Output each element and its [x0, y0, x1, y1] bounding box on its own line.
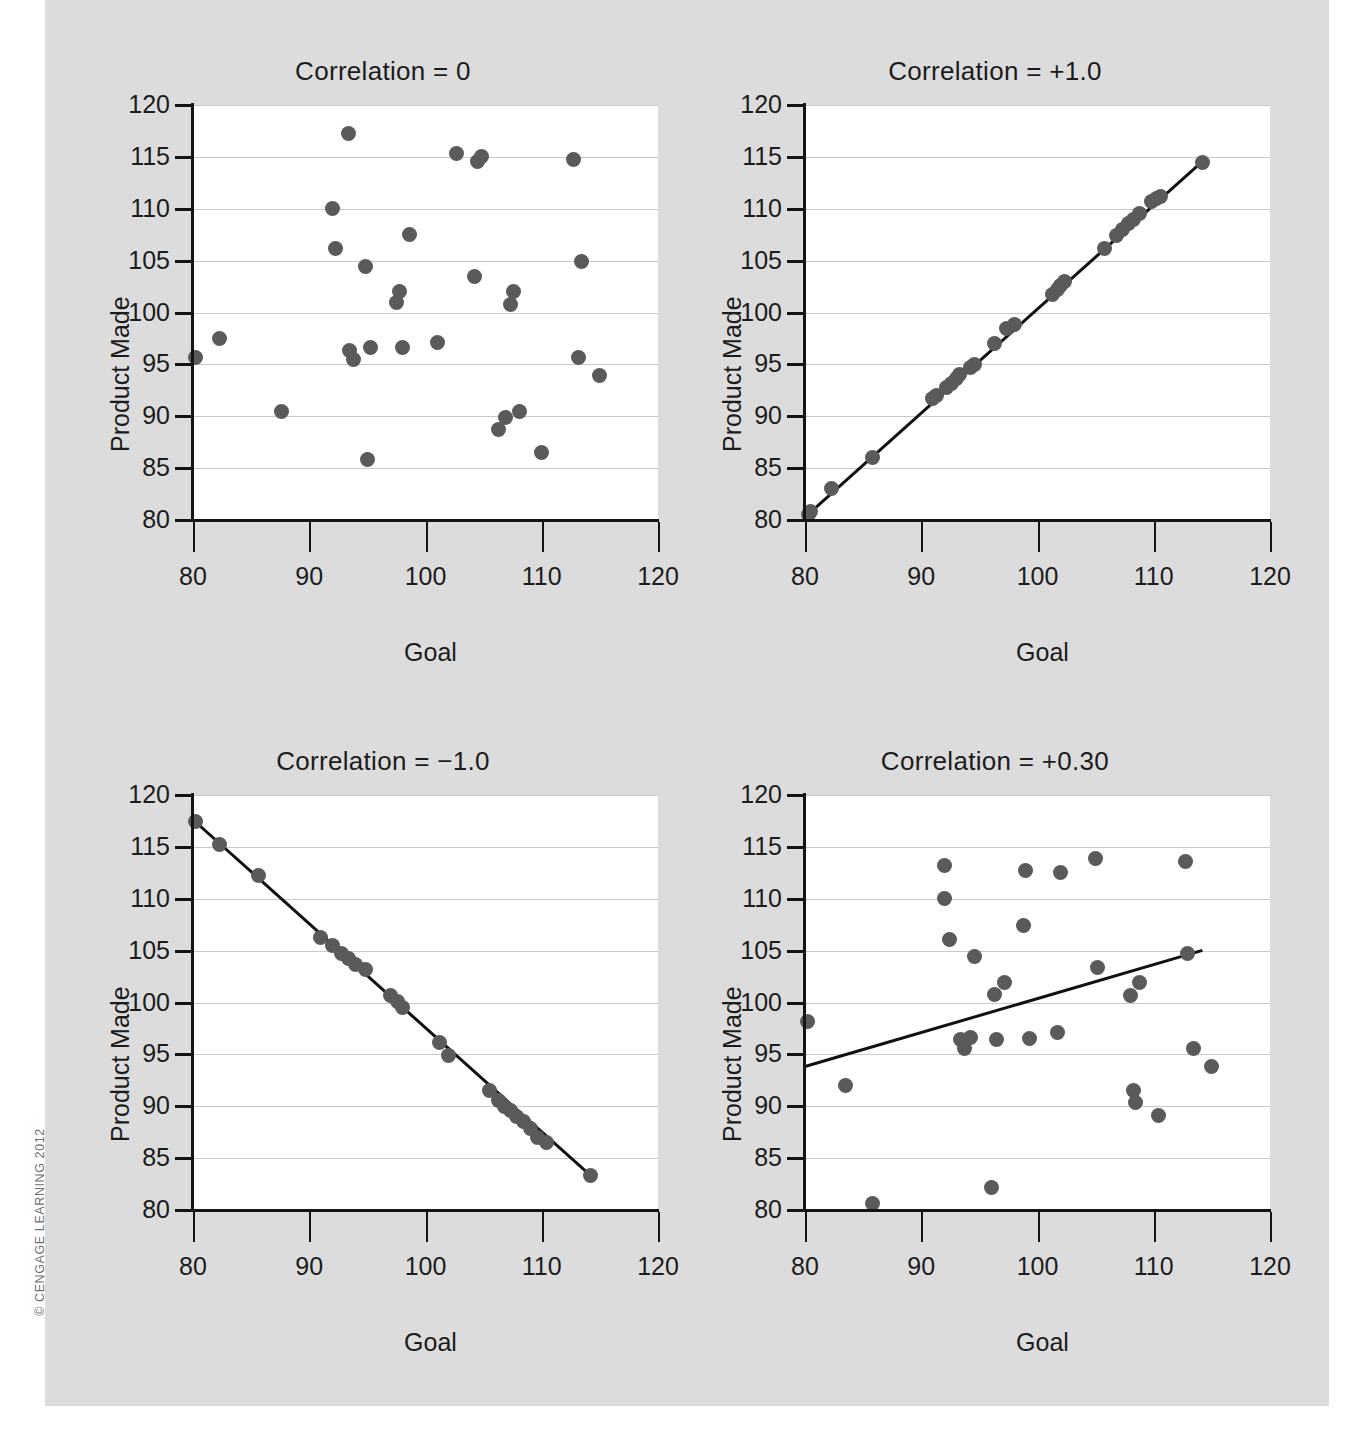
gridline: [193, 468, 658, 469]
y-axis-tick-label: 85: [710, 1145, 782, 1170]
x-axis-tick-label: 80: [765, 1252, 845, 1281]
y-axis-tick-label: 90: [710, 1093, 782, 1118]
chart-correlation-positive-point-three: Correlation = +0.30 Product Made Goal 80…: [690, 712, 1300, 1402]
data-point: [1050, 1025, 1065, 1040]
x-axis-tick: [1154, 522, 1156, 552]
chart-correlation-zero: Correlation = 0 Product Made Goal 808590…: [78, 22, 688, 712]
data-point: [449, 146, 464, 161]
data-point: [824, 481, 839, 496]
x-axis-tick: [309, 522, 311, 552]
data-point: [346, 352, 361, 367]
y-axis-tick: [787, 1157, 804, 1160]
y-axis-tick: [175, 312, 192, 315]
data-point: [402, 227, 417, 242]
plot-area: [805, 795, 1270, 1210]
data-point: [392, 284, 407, 299]
gridline: [805, 899, 1270, 900]
x-axis-label: Goal: [193, 638, 668, 667]
data-point: [1195, 155, 1210, 170]
y-axis-tick-label: 85: [98, 455, 170, 480]
y-axis-tick-label: 90: [98, 1093, 170, 1118]
data-point: [395, 340, 410, 355]
x-axis-tick: [658, 1212, 660, 1242]
chart-correlation-negative-one: Correlation = −1.0 Product Made Goal 808…: [78, 712, 688, 1402]
x-axis-tick-label: 80: [153, 562, 233, 591]
x-axis-tick-label: 90: [269, 1252, 349, 1281]
y-axis-tick: [175, 415, 192, 418]
x-axis-tick: [1038, 522, 1040, 552]
data-point: [430, 335, 445, 350]
data-point: [1178, 854, 1193, 869]
y-axis-tick-label: 105: [710, 248, 782, 273]
data-point: [539, 1135, 554, 1150]
data-point: [395, 1000, 410, 1015]
y-axis-tick: [175, 950, 192, 953]
y-axis-tick: [787, 898, 804, 901]
data-point: [1186, 1041, 1201, 1056]
gridline: [805, 468, 1270, 469]
x-axis-tick: [1270, 522, 1272, 552]
y-axis-tick-label: 95: [710, 1041, 782, 1066]
gridline: [193, 1003, 658, 1004]
data-point: [571, 350, 586, 365]
gridline: [805, 364, 1270, 365]
y-axis-tick-label: 90: [710, 403, 782, 428]
y-axis-tick-label: 120: [710, 92, 782, 117]
x-axis-label: Goal: [805, 1328, 1280, 1357]
x-axis-tick-label: 100: [386, 562, 466, 591]
gridline: [193, 105, 658, 106]
y-axis-tick-label: 120: [98, 92, 170, 117]
y-axis-tick: [787, 950, 804, 953]
data-point: [1022, 1031, 1037, 1046]
x-axis-tick: [426, 522, 428, 552]
y-axis-tick-label: 85: [98, 1145, 170, 1170]
plot-area: [193, 795, 658, 1210]
gridline: [805, 847, 1270, 848]
data-point: [987, 336, 1002, 351]
y-axis-tick-label: 115: [710, 144, 782, 169]
data-point: [1018, 863, 1033, 878]
y-axis-tick: [787, 415, 804, 418]
y-axis-tick: [787, 104, 804, 107]
y-axis-tick-label: 80: [98, 1197, 170, 1222]
y-axis-tick: [175, 1105, 192, 1108]
y-axis-tick: [787, 260, 804, 263]
x-axis-tick: [193, 522, 195, 552]
x-axis-tick-label: 110: [1114, 1252, 1194, 1281]
x-axis-tick: [921, 522, 923, 552]
data-point: [1007, 317, 1022, 332]
y-axis-tick: [175, 363, 192, 366]
data-point: [251, 868, 266, 883]
data-point: [967, 357, 982, 372]
data-point: [963, 1030, 978, 1045]
copyright-notice: © CENGAGE LEARNING 2012: [33, 1122, 47, 1322]
y-axis-tick-label: 80: [98, 507, 170, 532]
y-axis-tick-label: 105: [98, 938, 170, 963]
data-point: [997, 975, 1012, 990]
gridline: [805, 261, 1270, 262]
x-axis-tick: [921, 1212, 923, 1242]
y-axis-tick: [787, 794, 804, 797]
trend-line: [805, 949, 1203, 1068]
y-axis-tick-label: 95: [98, 351, 170, 376]
y-axis-tick-label: 115: [98, 144, 170, 169]
gridline: [193, 364, 658, 365]
chart-title: Correlation = −1.0: [78, 746, 688, 777]
y-axis-tick: [787, 1002, 804, 1005]
gridline: [193, 899, 658, 900]
y-axis-tick: [175, 208, 192, 211]
x-axis-tick: [193, 1212, 195, 1242]
gridline: [805, 1054, 1270, 1055]
x-axis-tick-label: 100: [998, 562, 1078, 591]
data-point: [1057, 274, 1072, 289]
y-axis-tick-label: 115: [98, 834, 170, 859]
chart-title: Correlation = +1.0: [690, 56, 1300, 87]
data-point: [360, 452, 375, 467]
y-axis-tick: [175, 1157, 192, 1160]
x-axis-tick: [1154, 1212, 1156, 1242]
gridline: [193, 313, 658, 314]
x-axis-tick: [658, 522, 660, 552]
gridline: [193, 157, 658, 158]
x-axis-tick: [1038, 1212, 1040, 1242]
y-axis-tick: [175, 1002, 192, 1005]
